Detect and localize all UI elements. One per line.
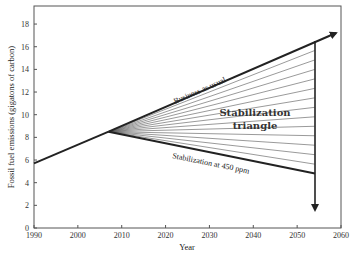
x-tick-label: 2040: [245, 231, 261, 240]
stab-450-label: Stabilization at 450 ppm: [172, 151, 251, 176]
y-tick-label: 16: [21, 43, 29, 52]
stab-triangle-label-1: Stabilization: [219, 107, 291, 118]
y-tick-label: 14: [21, 65, 29, 74]
y-axis-title: Fossil fuel emissions (gigatons of carbo…: [6, 46, 16, 189]
stab-triangle-label-2: triangle: [233, 120, 278, 131]
x-tick-label: 2000: [70, 231, 86, 240]
x-axis-title: Year: [179, 242, 195, 252]
historical-emissions-line: [34, 132, 109, 164]
x-axis: 19902000201020202030204020502060: [26, 225, 349, 240]
y-tick-label: 2: [25, 201, 29, 210]
chart: 024681012141618 199020002010202020302040…: [0, 0, 351, 255]
x-tick-label: 2020: [158, 231, 174, 240]
x-tick-label: 2010: [114, 231, 130, 240]
plot-frame: [34, 6, 341, 228]
y-tick-label: 12: [21, 88, 29, 97]
y-tick-label: 10: [21, 111, 29, 120]
bau-label: Business as usual: [172, 75, 228, 106]
fan-line: [109, 126, 315, 131]
fan-line: [109, 60, 315, 132]
y-tick-label: 6: [25, 156, 29, 165]
x-tick-label: 2050: [289, 231, 305, 240]
y-axis: 024681012141618: [21, 20, 37, 233]
fan-line: [109, 69, 315, 131]
x-tick-label: 1990: [26, 231, 42, 240]
x-tick-label: 2060: [333, 231, 349, 240]
y-tick-label: 18: [21, 20, 29, 29]
x-tick-label: 2030: [201, 231, 217, 240]
y-tick-label: 4: [25, 179, 29, 188]
y-tick-label: 8: [25, 133, 29, 142]
